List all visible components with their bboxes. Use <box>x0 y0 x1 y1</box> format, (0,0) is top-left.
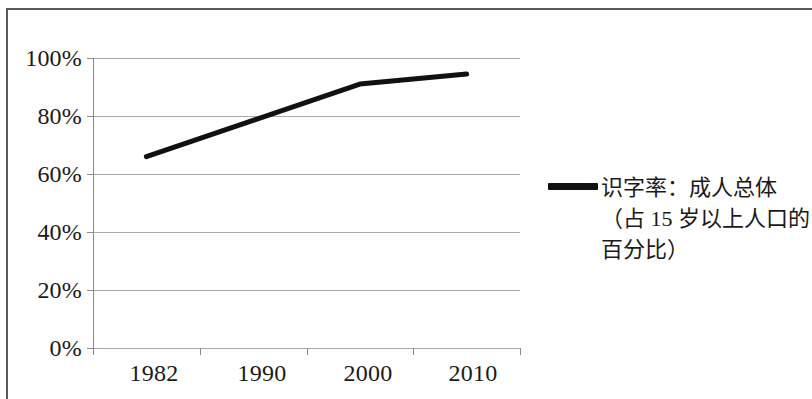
x-tick-0 <box>93 348 94 355</box>
y-axis-label-20: 20% <box>37 277 82 304</box>
chart-legend: 识字率：成人总体 （占 15 岁以上人口的 百分比） <box>548 172 798 265</box>
x-tick-3 <box>413 348 414 355</box>
legend-label-line-2: （占 15 岁以上人口的 <box>601 203 810 234</box>
y-axis-label-100: 100% <box>25 45 82 72</box>
x-tick-1 <box>200 348 201 355</box>
line-series-literacy-rate <box>146 74 466 157</box>
x-axis-label-1990: 1990 <box>238 360 287 387</box>
legend-line-marker-icon <box>548 183 598 190</box>
x-tick-4 <box>520 348 521 355</box>
y-axis-label-0: 0% <box>50 335 82 362</box>
x-axis-label-2010: 2010 <box>449 360 498 387</box>
y-axis-label-80: 80% <box>37 103 82 130</box>
series-layer <box>93 58 520 348</box>
figure-border-left <box>6 8 8 399</box>
chart-plot-area: 100% 80% 60% 40% 20% 0% 1982 1990 2000 2… <box>93 58 520 348</box>
legend-entry-literacy-rate: 识字率：成人总体 （占 15 岁以上人口的 百分比） <box>548 172 798 265</box>
legend-label-line-1: 识字率：成人总体 <box>601 172 810 203</box>
figure-border-top <box>6 8 812 10</box>
x-axis-label-1982: 1982 <box>130 360 179 387</box>
figure-container: 100% 80% 60% 40% 20% 0% 1982 1990 2000 2… <box>0 0 812 399</box>
x-tick-2 <box>307 348 308 355</box>
legend-label: 识字率：成人总体 （占 15 岁以上人口的 百分比） <box>601 172 810 265</box>
legend-label-line-3: 百分比） <box>601 234 810 265</box>
y-axis-label-40: 40% <box>37 219 82 246</box>
y-axis-label-60: 60% <box>37 161 82 188</box>
x-axis-label-2000: 2000 <box>344 360 393 387</box>
